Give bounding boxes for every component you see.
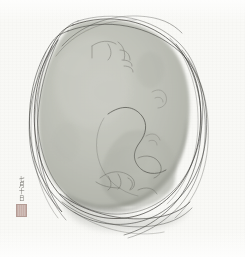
scan-band-bottom: [0, 231, 245, 257]
inscription-char: 十: [19, 188, 25, 195]
ink-wash-painting: [0, 0, 245, 257]
inscription-char: 日: [19, 194, 25, 201]
inscription-characters: 七 月 十 日: [19, 176, 25, 201]
inscription-column: 七 月 十 日: [15, 176, 28, 217]
artist-seal-icon: [16, 204, 27, 217]
scan-band-top: [0, 0, 245, 22]
artwork-frame: 七 月 十 日: [0, 0, 245, 257]
